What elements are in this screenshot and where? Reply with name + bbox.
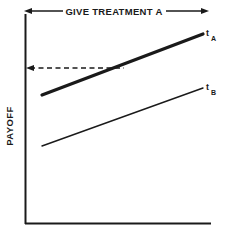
series-label-b-subscript: B (211, 89, 216, 96)
series-label-a-subscript: A (211, 35, 216, 42)
figure-container: GIVE TREATMENT A PAYOFF t A t B (0, 0, 228, 234)
figure-background (0, 0, 228, 234)
y-axis-title: PAYOFF (4, 106, 15, 145)
series-label-a-main: t (206, 28, 209, 38)
series-label-b-main: t (206, 82, 209, 92)
treatment-span-label: GIVE TREATMENT A (65, 6, 162, 17)
